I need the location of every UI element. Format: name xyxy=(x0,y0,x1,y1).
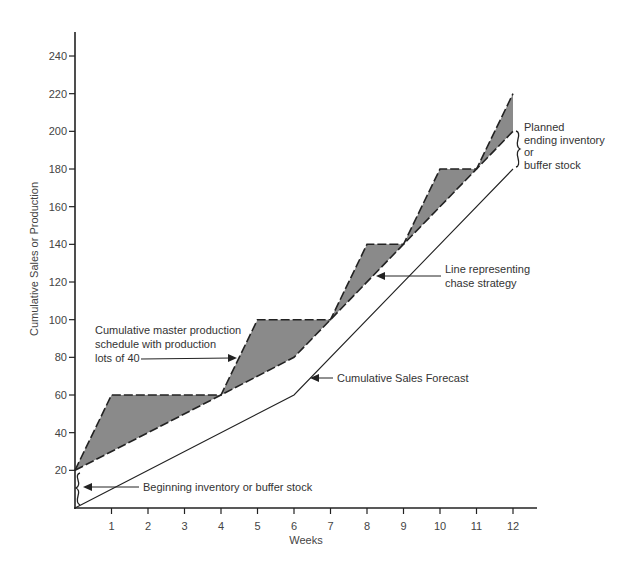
axis-ticks: 2040608010012014016018020022024012345678… xyxy=(49,50,519,532)
annotation-chase-line1: Line representing xyxy=(445,263,530,275)
x-tick-label: 8 xyxy=(364,520,370,532)
annotation-ending-inventory: Planned ending inventory or buffer stock xyxy=(516,121,605,171)
y-tick-label: 140 xyxy=(49,238,67,250)
x-tick-label: 9 xyxy=(400,520,406,532)
annotation-forecast: Cumulative Sales Forecast xyxy=(310,372,468,384)
x-tick-label: 5 xyxy=(254,520,260,532)
x-tick-label: 1 xyxy=(108,520,114,532)
annotation-forecast-text: Cumulative Sales Forecast xyxy=(337,372,468,384)
series-lines xyxy=(75,94,513,508)
y-tick-label: 100 xyxy=(49,314,67,326)
annotation-mps-line1: Cumulative master production xyxy=(95,324,241,336)
annotation-ending-line2: ending inventory xyxy=(524,134,605,146)
x-axis-label: Weeks xyxy=(289,534,323,546)
x-tick-label: 12 xyxy=(507,520,519,532)
y-axis-label: Cumulative Sales or Production xyxy=(28,182,40,336)
x-tick-label: 11 xyxy=(471,520,482,532)
arrow-head-icon xyxy=(310,374,319,382)
annotation-mps-line2: schedule with production xyxy=(95,338,216,350)
annotation-mps-arrow-line xyxy=(141,358,232,359)
annotation-chase-line2: chase strategy xyxy=(445,277,517,289)
x-tick-label: 10 xyxy=(434,520,446,532)
x-tick-label: 4 xyxy=(218,520,224,532)
y-tick-label: 40 xyxy=(55,427,67,439)
arrow-head-icon xyxy=(376,272,385,280)
x-tick-label: 7 xyxy=(327,520,333,532)
brace-icon xyxy=(76,473,80,505)
annotation-ending-line4: buffer stock xyxy=(524,159,581,171)
annotation-ending-line3: or xyxy=(524,146,534,158)
y-tick-label: 80 xyxy=(55,351,67,363)
annotation-mps: Cumulative master production schedule wi… xyxy=(95,324,241,364)
y-tick-label: 240 xyxy=(49,50,67,62)
y-tick-label: 200 xyxy=(49,125,67,137)
arrow-head-icon xyxy=(228,354,237,362)
x-tick-label: 3 xyxy=(181,520,187,532)
y-tick-label: 160 xyxy=(49,201,67,213)
x-tick-label: 6 xyxy=(291,520,297,532)
y-tick-label: 180 xyxy=(49,163,67,175)
arrow-head-icon xyxy=(83,483,92,491)
annotation-ending-line1: Planned xyxy=(524,121,564,133)
y-tick-label: 220 xyxy=(49,88,67,100)
annotation-chase: Line representing chase strategy xyxy=(376,263,530,289)
x-tick-label: 2 xyxy=(145,520,151,532)
y-tick-label: 120 xyxy=(49,276,67,288)
y-tick-label: 60 xyxy=(55,389,67,401)
annotation-beginning-text: Beginning inventory or buffer stock xyxy=(143,481,313,493)
y-tick-label: 20 xyxy=(55,464,67,476)
brace-icon xyxy=(516,131,520,167)
chart-canvas: 2040608010012014016018020022024012345678… xyxy=(0,0,629,569)
annotation-mps-line3: lots of 40 xyxy=(95,352,140,364)
